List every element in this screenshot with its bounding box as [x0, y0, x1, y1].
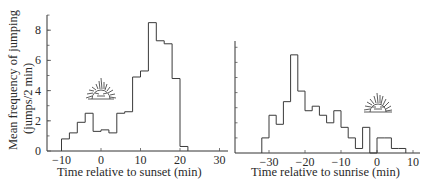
- y-tick-label: 6: [35, 53, 41, 67]
- sunset-x-axis-label: Time relative to sunset (min): [57, 165, 202, 179]
- sunset-axes: [47, 15, 228, 151]
- sunrise-x-axis-label: Time relative to sunrise (min): [251, 165, 400, 179]
- sunrise-histogram: [262, 55, 406, 153]
- y-tick-label: 0: [35, 144, 41, 158]
- y-tick-label: 8: [35, 23, 41, 37]
- y-tick-label: 2: [35, 114, 41, 128]
- y-axis-label: Mean frequency of jumping (jumps/2 min): [6, 9, 35, 150]
- x-tick-label: 10: [407, 155, 419, 169]
- y-axis-label-line1: Mean frequency of jumping: [6, 9, 20, 150]
- sunrise-panel: −30−20−10010 Time relative to sunrise (m…: [235, 41, 420, 179]
- x-tick-label: 30: [214, 153, 226, 167]
- rising-sun-icon: [364, 93, 392, 112]
- sunrise-axes: [235, 41, 420, 153]
- y-tick-label: 4: [35, 84, 41, 98]
- y-axis-label-line2: (jumps/2 min): [21, 63, 35, 134]
- sunset-panel: −100102030 02468 Time relative to sunset…: [35, 15, 228, 179]
- setting-sun-icon: [86, 78, 116, 99]
- sunset-y-tick-labels: 02468: [35, 23, 41, 158]
- sunset-histogram: [62, 23, 188, 151]
- figure: Mean frequency of jumping (jumps/2 min) …: [0, 0, 427, 184]
